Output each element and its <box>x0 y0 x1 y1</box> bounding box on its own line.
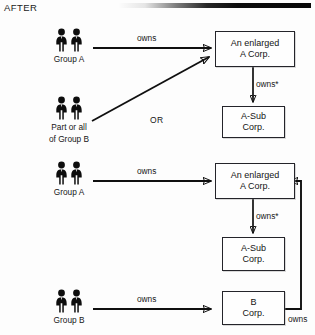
two-people-icon <box>40 96 98 120</box>
actor-label-part-or-all-line2: of Group B <box>40 134 98 144</box>
edge-label-b-corp-owns-enlarged-a-2: owns <box>288 314 307 324</box>
edge-label-group-a-owns-1: owns <box>137 33 156 43</box>
actor-label-part-or-all-line1: Part or all <box>40 122 98 132</box>
entity-line1-a-sub-corp-2: A-Sub <box>241 243 266 255</box>
entity-line2-a-sub-corp-2: Corp. <box>242 254 264 266</box>
diagram-canvas: AFTER <box>0 0 315 335</box>
top-divider-rule <box>118 3 311 8</box>
two-people-icon <box>46 161 92 185</box>
entity-line2-enlarged-a-corp-1: A Corp. <box>240 49 270 61</box>
entity-box-a-sub-corp-1[interactable]: A-Sub Corp. <box>222 106 285 138</box>
edge-label-group-b-owns-b-corp: owns <box>137 294 156 304</box>
actor-label-group-a-bottom: Group A <box>46 187 92 197</box>
entity-line1-b-corp: B <box>250 297 256 309</box>
edge-b-corp-owns-enlarged-a-2 <box>285 181 301 309</box>
section-label-after: AFTER <box>4 2 37 13</box>
two-people-icon <box>46 28 92 52</box>
entity-line2-enlarged-a-corp-2: A Corp. <box>240 181 270 193</box>
actor-group-a-top: Group A <box>46 28 92 64</box>
actor-group-b-bottom: Group B <box>46 289 92 325</box>
alternative-or-label: OR <box>150 115 163 125</box>
edge-label-enlarged-a-owns-a-sub-1: owns* <box>256 79 279 89</box>
entity-line1-a-sub-corp-1: A-Sub <box>241 111 266 123</box>
edge-label-enlarged-a-owns-a-sub-2: owns* <box>256 211 279 221</box>
entity-box-enlarged-a-corp-2[interactable]: An enlarged A Corp. <box>215 163 295 199</box>
actor-group-a-bottom: Group A <box>46 161 92 197</box>
actor-label-group-a-top: Group A <box>46 54 92 64</box>
entity-box-b-corp[interactable]: B Corp. <box>222 291 285 325</box>
entity-box-a-sub-corp-2[interactable]: A-Sub Corp. <box>222 237 285 271</box>
edge-group-b-part-to-enlarged-a-1 <box>92 57 209 121</box>
entity-line2-b-corp: Corp. <box>242 308 264 320</box>
entity-line1-enlarged-a-corp-1: An enlarged <box>231 38 280 50</box>
actor-part-or-all-group-b: Part or all of Group B <box>40 96 98 144</box>
entity-box-enlarged-a-corp-1[interactable]: An enlarged A Corp. <box>215 31 295 67</box>
actor-label-group-b-bottom: Group B <box>46 315 92 325</box>
entity-line2-a-sub-corp-1: Corp. <box>242 122 264 134</box>
two-people-icon <box>46 289 92 313</box>
entity-line1-enlarged-a-corp-2: An enlarged <box>231 170 280 182</box>
edge-label-group-a-owns-2: owns <box>137 166 156 176</box>
